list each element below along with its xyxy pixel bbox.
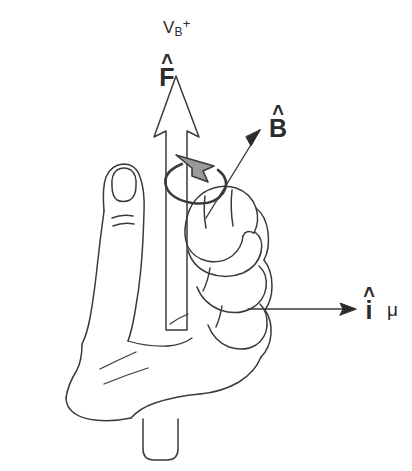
field-label: ˄ B [265,105,291,141]
magnetic-moment-label: μ [387,300,398,319]
current-arrow [248,303,356,315]
voltage-label: VB+ [163,17,191,38]
current-label: ˄ i [361,287,377,323]
voltage-superscript: + [183,16,191,31]
force-symbol: F [159,63,174,91]
ring-finger [197,266,266,327]
field-symbol: B [269,114,287,142]
current-symbol: i [366,296,373,324]
voltage-base: V [163,18,175,37]
index-finger [185,186,258,261]
voltage-subscript: B [175,25,183,39]
field-arrow [206,130,260,218]
right-hand-rule-figure [0,0,412,471]
thumb [82,164,144,344]
rod-cylinder [143,419,178,460]
force-label: ˄ F [154,54,180,90]
middle-finger [188,232,262,291]
